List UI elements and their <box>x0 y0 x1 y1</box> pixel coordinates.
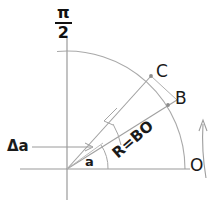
geometry-diagram: π 2 C B O a Δa R=BO <box>0 0 224 211</box>
point-label-c: C <box>156 63 168 80</box>
angle-label-a: a <box>85 155 94 168</box>
point-marker-b <box>166 103 170 107</box>
angle-arc-a <box>101 145 108 169</box>
point-marker-c <box>149 74 153 78</box>
perpendicular-tick <box>104 121 113 125</box>
perpendicular-tick-leg <box>104 108 117 121</box>
delta-a-label: Δa <box>7 139 29 154</box>
pi-over-two-label: π 2 <box>55 5 72 41</box>
point-label-b: B <box>175 90 187 107</box>
point-label-o: O <box>190 157 203 174</box>
diagram-canvas <box>0 0 224 211</box>
pi-numerator: π <box>55 5 72 21</box>
two-denominator: 2 <box>55 25 72 41</box>
